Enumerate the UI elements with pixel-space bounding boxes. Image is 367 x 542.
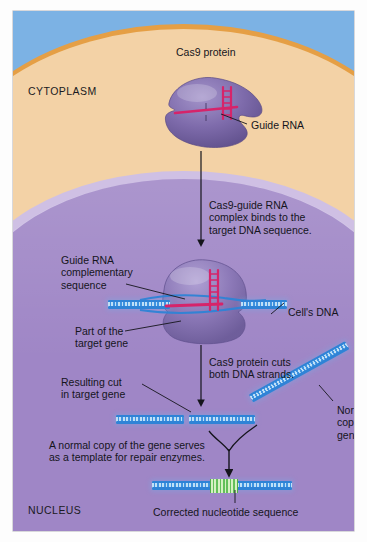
crispr-diagram-figure: CYTOPLASM NUCLEUS [0,0,367,542]
label-resulting-cut: Resulting cut in target gene [61,376,125,401]
label-corrected-sequence: Corrected nucleotide sequence [153,506,298,518]
label-part-of-target-gene: Part of the target gene [75,325,128,350]
illustration-frame: CYTOPLASM NUCLEUS [13,11,354,531]
label-normal-copy-of-gene: Normal copy of gene [337,404,354,441]
label-guide-rna: Guide RNA [251,119,304,131]
label-cells-dna: Cell's DNA [288,306,338,318]
label-cas9-protein: Cas9 protein [176,46,236,58]
step-2-text: Cas9 protein cuts both DNA strands. [209,356,294,381]
label-guide-rna-complementary: Guide RNA complementary sequence [61,254,133,291]
step-1-text: Cas9-guide RNA complex binds to the targ… [209,199,312,236]
step-3-text: A normal copy of the gene serves as a te… [49,439,205,464]
